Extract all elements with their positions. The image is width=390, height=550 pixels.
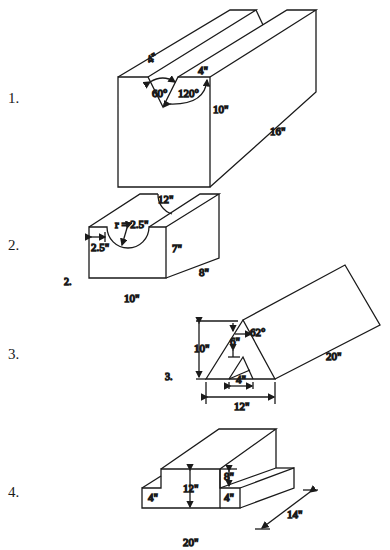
fig4-left-base-height: 4" (148, 491, 158, 503)
fig3-height: 10" (194, 342, 210, 354)
fig1-top-left-width: 4" (145, 50, 160, 65)
fig3-inner-offset: 6" (230, 335, 240, 347)
fig4-step-height: 8" (224, 470, 234, 482)
fig2-length: 8" (199, 266, 209, 278)
fig3-angle: 62° (250, 326, 265, 338)
fig2-offset: 2.5" (91, 241, 109, 253)
fig2-height: 7" (172, 242, 182, 254)
fig4-right-base-height: 4" (224, 491, 234, 503)
figure-drawings: 4" 4" 60° 120° 10" 16" 12" r = 2.5" 2.5"… (0, 0, 390, 550)
fig1-groove-angle: 60° (152, 87, 167, 99)
figure-3-triangular-prism (196, 265, 380, 404)
fig3-base: 12" (234, 400, 250, 412)
fig2-width: 10" (124, 292, 140, 304)
fig3-inner-base: 4" (236, 373, 246, 385)
fig2-radius: r = 2.5" (115, 218, 149, 230)
fig1-length: 16" (270, 125, 286, 137)
figure-1-v-groove-block (118, 10, 316, 187)
fig4-height: 12" (183, 482, 199, 494)
fig1-height: 10" (213, 103, 229, 115)
fig4-length: 14" (287, 508, 303, 520)
fig3-length: 20" (326, 350, 342, 362)
fig3-inner-number: 3. (165, 371, 173, 382)
fig4-width: 20" (183, 536, 199, 548)
fig1-top-right-width: 4" (198, 64, 208, 76)
fig2-inner-number: 2. (64, 276, 72, 287)
fig1-outer-angle: 120° (178, 87, 199, 99)
